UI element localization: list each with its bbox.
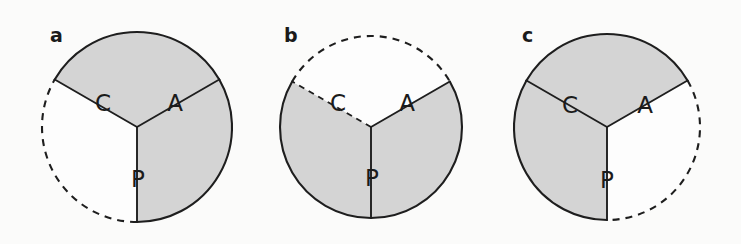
sector-label-c-P: P xyxy=(600,167,614,193)
sector-label-a-A: A xyxy=(167,90,183,116)
sector-label-c-A: A xyxy=(637,92,653,118)
sector-label-a-C: C xyxy=(95,90,111,116)
panel-b: CAPb xyxy=(280,24,464,223)
three-circle-diagram: CAPaCAPbCAPc xyxy=(0,0,741,244)
figure-container: CAPaCAPbCAPc xyxy=(0,0,741,244)
panel-c: CAPc xyxy=(514,24,702,225)
panel-letter-a: a xyxy=(50,24,63,46)
panel-letter-b: b xyxy=(284,24,298,46)
panel-a: CAPa xyxy=(42,24,234,227)
sector-label-b-P: P xyxy=(365,165,379,191)
sector-label-b-C: C xyxy=(330,90,346,116)
panel-letter-c: c xyxy=(522,24,533,46)
sector-label-b-A: A xyxy=(399,90,415,116)
sector-label-a-P: P xyxy=(131,166,145,192)
sector-label-c-C: C xyxy=(562,92,578,118)
